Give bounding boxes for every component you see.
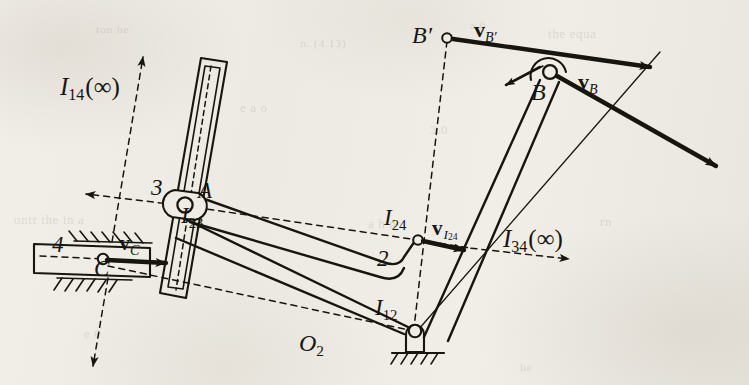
link-3-coupler-to-B	[424, 80, 559, 341]
label-i24-base: I	[384, 205, 392, 230]
label-i34-sub: 34	[511, 238, 527, 255]
label-i23-base: I	[181, 203, 189, 228]
label-point-a: A	[198, 179, 212, 202]
pin-joint-Bprime	[442, 33, 452, 43]
label-o2-sub: 2	[316, 342, 324, 359]
velocity-vector-vc	[107, 260, 166, 263]
label-i14-tail: (∞)	[85, 73, 119, 100]
label-i34-tail: (∞)	[528, 225, 562, 252]
label-vbprime-base: v	[474, 17, 485, 42]
label-i14-sub: 14	[68, 86, 84, 103]
label-i34-infinity: I34(∞)	[503, 226, 563, 255]
label-vb-sub: B	[589, 81, 598, 97]
label-i12-base: I	[375, 295, 383, 320]
label-vi24-base: v	[432, 216, 443, 240]
label-i24: I24	[384, 206, 406, 232]
label-link-3: 3	[151, 176, 163, 199]
label-point-c: C	[94, 257, 109, 280]
c-i12-line	[108, 266, 414, 331]
label-link-2: 2	[377, 247, 389, 270]
label-vb: vB	[578, 71, 598, 96]
link-2-lower-member	[176, 238, 404, 334]
label-o2: O2	[299, 331, 324, 358]
label-i24-sub: 24	[392, 217, 407, 233]
label-vi24-sub2: 24	[448, 231, 458, 242]
label-i12-sub: 12	[383, 307, 398, 323]
label-vc-sub: C	[130, 242, 139, 258]
label-o2-base: O	[299, 330, 316, 356]
label-i14-infinity: I14(∞)	[60, 74, 120, 103]
velocity-vector-vi24	[423, 241, 464, 250]
label-vc: vC	[119, 232, 139, 257]
label-vbprime-sub: B′	[485, 29, 497, 45]
label-point-bprime: B′	[412, 23, 432, 47]
label-link-4: 4	[52, 233, 64, 256]
label-vbprime: vB′	[474, 19, 497, 44]
label-vb-base: v	[578, 69, 589, 94]
label-i23: I23	[181, 204, 203, 230]
label-vc-base: v	[119, 230, 130, 255]
linkage-drawing	[0, 0, 749, 385]
label-i23-sub: 23	[189, 215, 204, 231]
figure-canvas: the equan. (4.13)a 0ton hee a oontr the …	[0, 0, 749, 385]
label-vi24: vI24	[432, 218, 458, 242]
label-i12: I12	[375, 296, 397, 322]
bprime-i12-line	[414, 41, 447, 328]
label-point-b: B	[531, 80, 546, 104]
i14-infinity-line-down	[93, 278, 108, 366]
